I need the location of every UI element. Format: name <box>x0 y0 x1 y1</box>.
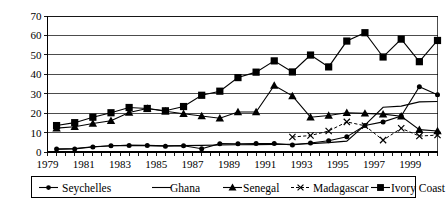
series-madagascar-pt-14-x-marker <box>307 132 313 138</box>
y-tick-labels: 010203040506070 <box>31 10 43 158</box>
x-tick-label-1979: 1979 <box>37 158 60 170</box>
y-tick-label-10: 10 <box>31 127 43 139</box>
legend-label-senegal: Senegal <box>243 182 279 195</box>
series-ivory-coast-pt-17-square-marker <box>361 29 368 36</box>
series-ivory-coast-pt-10-square-marker <box>234 74 241 81</box>
series-seychelles-pt-20-circle-marker <box>417 84 422 89</box>
legend-label-madagascar: Madagascar <box>313 182 369 195</box>
series-senegal-pt-20-triangle-marker <box>415 125 423 132</box>
y-tick-label-40: 40 <box>31 68 43 80</box>
x-tick-label-1999: 1999 <box>399 158 422 170</box>
series-ivory-coast-pt-6-square-marker <box>162 107 169 114</box>
series-ivory-coast-pt-3-square-marker <box>107 109 114 116</box>
y-tick-label-60: 60 <box>31 29 43 41</box>
series-ivory-coast-pt-21-square-marker <box>434 37 441 44</box>
x-tick-label-1989: 1989 <box>218 158 241 170</box>
series-madagascar-pt-18-x-marker <box>380 137 386 143</box>
legend-label-seychelles: Seychelles <box>62 182 112 195</box>
series-ivory-coast-pt-11-square-marker <box>253 69 260 76</box>
y-tick-label-20: 20 <box>31 107 43 119</box>
x-tick-label-1981: 1981 <box>73 158 95 170</box>
series-line-senegal <box>57 86 438 131</box>
series-ghana <box>57 101 438 149</box>
chart-legend: SeychellesGhanaSenegalMadagascarIvory Co… <box>32 177 446 198</box>
line-chart: 010203040506070 197919811983198519871989… <box>0 0 447 206</box>
series-ivory-coast-pt-8-square-marker <box>198 92 205 99</box>
axes-group <box>48 16 438 152</box>
series-line-seychelles <box>57 87 438 149</box>
y-tick-label-50: 50 <box>31 49 43 61</box>
legend-ivory-coast-square-marker <box>377 184 384 191</box>
y-tick-label-70: 70 <box>31 10 43 22</box>
series-ivory-coast-pt-9-square-marker <box>216 88 223 95</box>
legend-label-ghana: Ghana <box>170 182 200 194</box>
series-ivory-coast-pt-7-square-marker <box>180 103 187 110</box>
series-seychelles-pt-11-circle-marker <box>254 141 259 146</box>
x-tick-label-1983: 1983 <box>109 158 132 170</box>
series-seychelles-pt-21-circle-marker <box>435 92 440 97</box>
series-madagascar-pt-19-x-marker <box>398 125 404 131</box>
series-ivory-coast-pt-1-square-marker <box>71 119 78 126</box>
series-seychelles-pt-16-circle-marker <box>344 134 349 139</box>
series-senegal-pt-12-triangle-marker <box>270 81 278 88</box>
series-ivory-coast-pt-15-square-marker <box>325 63 332 70</box>
x-tick-labels: 1979198119831985198719891991199319951997… <box>37 158 422 170</box>
series-senegal-pt-3-triangle-marker <box>107 117 115 124</box>
x-tick-label-1997: 1997 <box>363 158 386 170</box>
series-madagascar-pt-16-x-marker <box>344 119 350 125</box>
series-ivory-coast-pt-0-square-marker <box>53 122 60 129</box>
series-ivory-coast-pt-2-square-marker <box>89 114 96 121</box>
series-seychelles-pt-10-circle-marker <box>235 141 240 146</box>
series-ivory-coast-pt-20-square-marker <box>416 58 423 65</box>
series-senegal-pt-13-triangle-marker <box>288 92 296 99</box>
series-seychelles-pt-18-circle-marker <box>381 119 386 124</box>
series-ivory-coast-pt-12-square-marker <box>271 57 278 64</box>
series-ivory-coast-pt-4-square-marker <box>126 104 133 111</box>
chart-figure: 010203040506070 197919811983198519871989… <box>0 0 447 206</box>
series-ivory-coast-pt-18-square-marker <box>379 53 386 60</box>
y-tick-label-0: 0 <box>36 146 42 158</box>
series-seychelles-pt-13-circle-marker <box>290 143 295 148</box>
series-ivory-coast-pt-19-square-marker <box>398 36 405 43</box>
series-ivory-coast-pt-13-square-marker <box>289 68 296 75</box>
y-tick-label-30: 30 <box>31 88 43 100</box>
series-ivory-coast-pt-5-square-marker <box>144 105 151 112</box>
data-series-group <box>52 29 441 151</box>
series-ivory-coast-pt-16-square-marker <box>343 37 350 44</box>
x-tick-label-1991: 1991 <box>254 158 276 170</box>
series-seychelles-pt-8-circle-marker <box>199 146 204 151</box>
series-madagascar-pt-15-x-marker <box>326 128 332 134</box>
gridlines-group <box>48 16 438 133</box>
series-line-ghana <box>57 101 438 149</box>
x-tick-label-1993: 1993 <box>290 158 313 170</box>
legend-label-ivory-coast: Ivory Coast <box>391 182 446 195</box>
series-seychelles-pt-12-circle-marker <box>272 141 277 146</box>
x-tick-label-1985: 1985 <box>145 158 168 170</box>
x-tick-label-1987: 1987 <box>182 158 205 170</box>
series-senegal-pt-16-triangle-marker <box>343 109 351 116</box>
x-tick-label-1995: 1995 <box>327 158 350 170</box>
legend-seychelles-circle-marker <box>46 185 51 190</box>
series-ivory-coast-pt-14-square-marker <box>307 51 314 58</box>
